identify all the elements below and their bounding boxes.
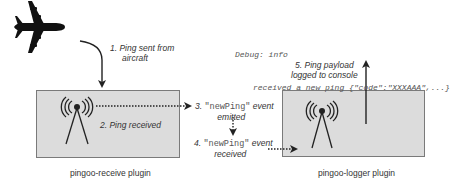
console-output: Debug: info received a new ping {"code":…	[235, 27, 450, 104]
step3-line2: emitted	[195, 112, 274, 122]
step1-label: 1. Ping sent from aircraft	[110, 43, 174, 63]
console-line1: Debug: info	[235, 49, 450, 60]
airplane-icon	[14, 1, 65, 53]
step1-line2: aircraft	[110, 53, 174, 63]
step4-suffix: event	[252, 138, 273, 148]
receive-plugin-caption: pingoo-receive plugin	[70, 168, 151, 178]
step4-line2: received	[194, 149, 273, 159]
antenna-icon	[306, 101, 337, 148]
step4-line1: 4. "newPing" event	[194, 138, 273, 149]
step1-line1: 1. Ping sent from	[110, 43, 174, 53]
step2-label: 2. Ping received	[100, 120, 161, 130]
console-line2: received a new ping {"code":"XXXAAA",...…	[235, 82, 450, 93]
step4-prefix: 4.	[194, 138, 201, 148]
step3-label: 3. "newPing" event emitted	[195, 101, 274, 122]
antenna-icon	[61, 97, 92, 144]
logger-plugin-caption: pingoo-logger plugin	[318, 168, 395, 178]
step4-event: "newPing"	[203, 139, 249, 149]
step3-prefix: 3.	[195, 101, 202, 111]
step4-label: 4. "newPing" event received	[194, 138, 273, 159]
